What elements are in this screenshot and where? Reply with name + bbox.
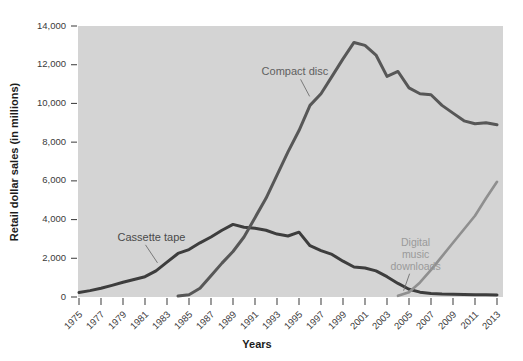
label-compact-disc: Compact disc — [262, 65, 329, 77]
label-digital-line-3: downloads — [390, 260, 440, 272]
label-digital-line-1: Digital — [401, 236, 430, 248]
y-tick-label: 14,000 — [37, 20, 66, 31]
line-chart: 02,0004,0006,0008,00010,00012,00014,000 … — [0, 0, 523, 361]
chart-container: 02,0004,0006,0008,00010,00012,00014,000 … — [0, 0, 523, 361]
y-tick-label: 6,000 — [42, 174, 66, 185]
y-tick-label: 4,000 — [42, 213, 66, 224]
y-tick-label: 8,000 — [42, 136, 66, 147]
y-tick-label: 10,000 — [37, 97, 66, 108]
label-cassette-tape: Cassette tape — [118, 231, 186, 243]
label-digital-line-2: music — [402, 248, 429, 260]
x-axis-title: Years — [242, 338, 271, 350]
y-tick-label: 2,000 — [42, 252, 66, 263]
y-tick-label: 12,000 — [37, 58, 66, 69]
y-tick-label: 0 — [61, 291, 66, 302]
y-axis-title: Retail dollar sales (in millions) — [8, 83, 20, 242]
